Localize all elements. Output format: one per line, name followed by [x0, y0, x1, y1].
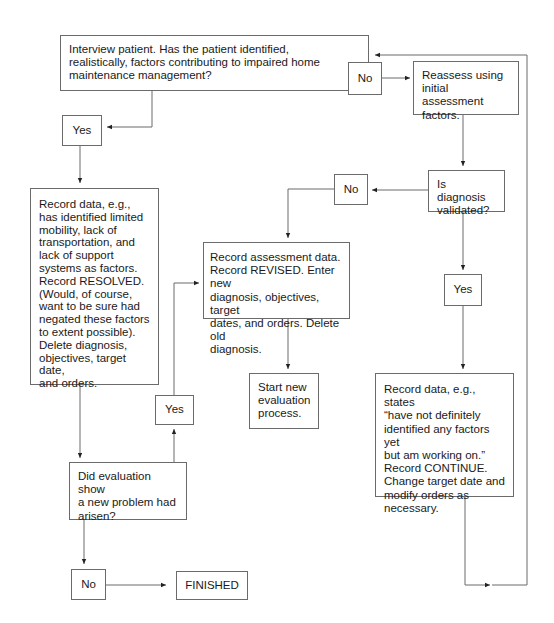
- finished-node: FINISHED: [176, 571, 248, 600]
- record-revised-node: Record assessment data. Record REVISED. …: [203, 242, 350, 319]
- node-text: FINISHED: [185, 579, 239, 592]
- diagnosis-validated-node: Is diagnosis validated?: [428, 170, 505, 212]
- node-text: Interview patient. Has the patient ident…: [61, 36, 368, 90]
- record-continue-node: Record data, e.g., states “have not defi…: [375, 373, 514, 497]
- node-text: Yes: [73, 124, 92, 137]
- node-text: No: [344, 183, 359, 196]
- node-text: Record assessment data. Record REVISED. …: [204, 243, 349, 365]
- yes-branch-top-label: Yes: [62, 115, 102, 146]
- no-branch-middle-label: No: [334, 174, 368, 205]
- node-text: Yes: [165, 403, 184, 416]
- start-new-evaluation-node: Start new evaluation process.: [249, 373, 319, 429]
- node-text: Did evaluation show a new problem had ar…: [70, 463, 186, 530]
- record-resolved-node: Record data, e.g., has identified limite…: [30, 188, 159, 385]
- no-branch-bottom-label: No: [71, 569, 106, 600]
- node-text: Yes: [454, 283, 473, 296]
- node-text: No: [81, 578, 96, 591]
- node-text: Start new evaluation process.: [250, 374, 318, 428]
- reassess-node: Reassess using initial assessment factor…: [413, 61, 519, 115]
- node-text: Reassess using initial assessment factor…: [414, 62, 518, 129]
- node-text: Record data, e.g., has identified limite…: [31, 189, 158, 399]
- node-text: No: [358, 72, 373, 85]
- no-branch-top-label: No: [348, 62, 382, 95]
- node-text: Is diagnosis validated?: [429, 171, 504, 225]
- interview-patient-node: Interview patient. Has the patient ident…: [60, 35, 369, 91]
- yes-branch-left-label: Yes: [155, 395, 194, 425]
- new-problem-decision-node: Did evaluation show a new problem had ar…: [69, 462, 187, 520]
- node-text: Record data, e.g., states “have not defi…: [376, 374, 513, 524]
- yes-branch-right-label: Yes: [444, 274, 482, 306]
